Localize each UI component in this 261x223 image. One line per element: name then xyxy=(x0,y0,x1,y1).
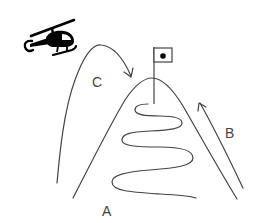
route-c-label: C xyxy=(92,74,102,90)
mountain-outline xyxy=(73,78,237,199)
diagram-canvas: C A B xyxy=(0,0,261,223)
route-b-label: B xyxy=(225,125,234,141)
route-a-label: A xyxy=(102,203,112,219)
route-b-arrow xyxy=(198,103,243,188)
route-a-path xyxy=(112,104,196,198)
route-c-arrow xyxy=(57,45,133,183)
summit-flag xyxy=(154,47,172,104)
helicopter-icon xyxy=(25,20,76,55)
flag-dot xyxy=(160,53,166,59)
